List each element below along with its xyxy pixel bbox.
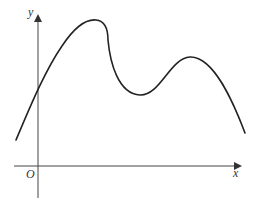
origin-label: O	[26, 168, 35, 180]
y-axis-label: y	[28, 6, 33, 18]
x-axis-label: x	[233, 167, 238, 179]
function-curve	[16, 20, 245, 140]
graph-canvas	[0, 0, 257, 200]
